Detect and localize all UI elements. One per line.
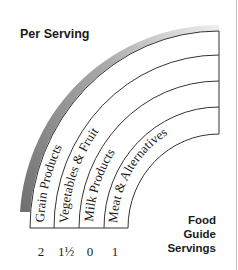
servings-meat: 1 [112, 244, 119, 260]
servings-vegetables: 1½ [58, 244, 74, 260]
servings-milk: 0 [87, 244, 94, 260]
arc-outer [30, 31, 219, 228]
servings-grain: 2 [38, 244, 45, 260]
side-label-line2: Guide [167, 227, 216, 241]
food-guide-servings-label: Food Guide Servings [167, 213, 216, 255]
band-label-meat: Meat & Alternatives [105, 124, 170, 223]
side-label-line1: Food [167, 213, 216, 227]
right-border [236, 0, 237, 270]
side-label-line3: Servings [167, 241, 216, 255]
